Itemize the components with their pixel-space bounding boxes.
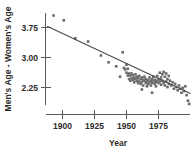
trend-line bbox=[47, 26, 190, 93]
data-point bbox=[151, 91, 154, 94]
data-point bbox=[161, 73, 164, 76]
data-point bbox=[176, 89, 179, 92]
y-axis-group: 3.75 3.00 2.25 Men's Age - Women's Age bbox=[3, 6, 51, 111]
chart-canvas: 3.75 3.00 2.25 Men's Age - Women's Age 1… bbox=[0, 0, 192, 155]
x-tick-label-1975: 1975 bbox=[149, 121, 168, 131]
data-point bbox=[150, 84, 153, 87]
data-point bbox=[129, 79, 132, 82]
data-point bbox=[124, 68, 127, 71]
data-point bbox=[126, 67, 129, 70]
x-tick-label-1950: 1950 bbox=[117, 121, 136, 131]
data-point bbox=[133, 81, 136, 84]
x-axis-title: Year bbox=[109, 138, 128, 148]
data-point bbox=[138, 80, 141, 83]
data-point bbox=[162, 71, 165, 74]
y-tick-label-2.25: 2.25 bbox=[21, 83, 38, 93]
data-point bbox=[134, 73, 137, 76]
x-tick-label-1925: 1925 bbox=[85, 121, 104, 131]
data-point bbox=[171, 81, 174, 84]
data-point bbox=[166, 86, 169, 89]
data-point bbox=[156, 75, 159, 78]
data-point bbox=[178, 84, 181, 87]
data-point bbox=[138, 75, 141, 78]
data-point bbox=[135, 79, 138, 82]
data-point bbox=[169, 79, 172, 82]
data-point bbox=[107, 61, 110, 64]
y-tick-label-3.00: 3.00 bbox=[21, 53, 38, 63]
data-point bbox=[146, 85, 149, 88]
data-point bbox=[166, 78, 169, 81]
data-point bbox=[155, 85, 158, 88]
data-point bbox=[143, 75, 146, 78]
data-point bbox=[148, 76, 151, 79]
y-tick-label-3.75: 3.75 bbox=[21, 23, 38, 33]
data-point bbox=[185, 94, 188, 97]
data-point bbox=[52, 14, 55, 17]
data-point bbox=[164, 75, 167, 78]
data-point bbox=[153, 79, 156, 82]
data-point bbox=[125, 71, 128, 74]
scatter-plot-figure: 3.75 3.00 2.25 Men's Age - Women's Age 1… bbox=[0, 0, 192, 155]
data-point bbox=[141, 81, 144, 84]
data-point bbox=[132, 74, 135, 77]
data-point bbox=[164, 84, 167, 87]
data-points-layer bbox=[52, 14, 190, 105]
data-point bbox=[160, 76, 163, 79]
y-axis-title: Men's Age - Women's Age bbox=[3, 6, 13, 111]
data-point bbox=[115, 65, 118, 68]
data-point bbox=[188, 103, 191, 106]
x-axis-group: 1900 1925 1950 1975 Year bbox=[46, 110, 190, 148]
data-point bbox=[119, 75, 122, 78]
data-point bbox=[187, 99, 190, 102]
data-point bbox=[147, 79, 150, 82]
data-point bbox=[141, 76, 144, 79]
data-point bbox=[182, 87, 185, 90]
data-point bbox=[87, 40, 90, 43]
data-point bbox=[137, 77, 140, 80]
data-point bbox=[141, 88, 144, 91]
x-tick-label-1900: 1900 bbox=[53, 121, 72, 131]
data-point bbox=[160, 83, 163, 86]
data-point bbox=[158, 80, 161, 83]
data-point bbox=[165, 72, 168, 75]
data-point bbox=[142, 84, 145, 87]
data-point bbox=[180, 91, 183, 94]
data-point bbox=[62, 19, 65, 22]
data-point bbox=[184, 85, 187, 88]
data-point bbox=[162, 82, 165, 85]
data-point bbox=[167, 75, 170, 78]
data-point bbox=[100, 54, 103, 57]
data-point bbox=[158, 71, 161, 74]
data-point bbox=[132, 79, 135, 82]
data-point bbox=[151, 78, 154, 81]
data-point bbox=[144, 78, 147, 81]
data-point bbox=[121, 51, 124, 54]
data-point bbox=[173, 87, 176, 90]
data-point bbox=[174, 83, 177, 86]
